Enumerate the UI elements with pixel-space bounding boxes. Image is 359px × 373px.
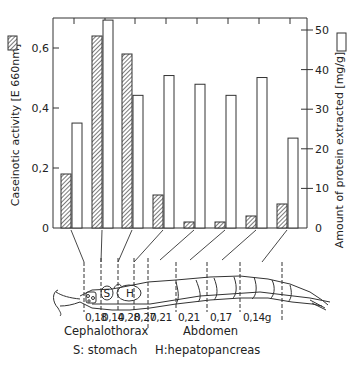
left-tick-label: 0 (42, 222, 49, 235)
segment-weight-labels: 0,180,140,280,270,210,210,170,14g (85, 311, 271, 323)
protein-bar (133, 95, 143, 228)
activity-bar (215, 222, 225, 228)
activity-bar (184, 222, 194, 228)
left-tick-label: 0,6 (32, 42, 50, 55)
segment-weight: 0,17 (210, 311, 232, 323)
svg-text:Caseinotic activity [E 660nm]: Caseinotic activity [E 660nm] (9, 44, 22, 206)
plot-frame (53, 18, 307, 228)
segment-weight: 0,14g (243, 311, 271, 323)
protein-bar (257, 78, 267, 228)
hatched-legend-swatch (8, 36, 17, 50)
protein-bar (288, 138, 298, 228)
activity-bar (122, 54, 132, 228)
activity-bar (153, 195, 163, 228)
activity-bar (61, 174, 71, 228)
activity-bar (246, 216, 256, 228)
protein-bar (226, 95, 236, 228)
right-axis: 01020304050 (301, 24, 329, 235)
svg-text:S: S (104, 287, 111, 299)
cephalothorax-label: Cephalothorax (64, 324, 149, 338)
protein-bar (103, 20, 113, 228)
right-tick-label: 30 (315, 103, 329, 116)
leader-lines (71, 230, 287, 262)
protein-bar (164, 76, 174, 228)
segment-weight: 0,21 (178, 311, 200, 323)
hepatopancreas-legend: H:hepatopancreas (155, 343, 260, 357)
right-tick-label: 10 (315, 182, 329, 195)
bar-series (61, 20, 298, 228)
protein-bar (72, 123, 82, 228)
open-legend-swatch (337, 33, 346, 51)
right-tick-label: 40 (315, 64, 329, 77)
left-axis: 00,20,40,6 (32, 42, 60, 235)
svg-text:Amount of protein extracted [m: Amount of protein extracted [mg/g] (333, 52, 346, 249)
activity-bar (277, 204, 287, 228)
left-tick-label: 0,2 (32, 162, 50, 175)
protein-bar (195, 84, 205, 228)
right-tick-label: 20 (315, 143, 329, 156)
right-axis-title: Amount of protein extracted [mg/g] (333, 33, 346, 248)
activity-bar (92, 36, 102, 228)
segment-weight: 0,21 (150, 311, 172, 323)
abdomen-label: Abdomen (183, 324, 238, 338)
right-tick-label: 50 (315, 24, 329, 37)
left-axis-title: Caseinotic activity [E 660nm] (8, 36, 22, 206)
stomach-legend: S: stomach (73, 343, 137, 357)
right-tick-label: 0 (315, 222, 322, 235)
chart-figure: 00,20,40,6 01020304050 Caseinotic activi… (0, 0, 359, 373)
svg-text:H: H (126, 287, 134, 299)
left-tick-label: 0,4 (32, 102, 50, 115)
